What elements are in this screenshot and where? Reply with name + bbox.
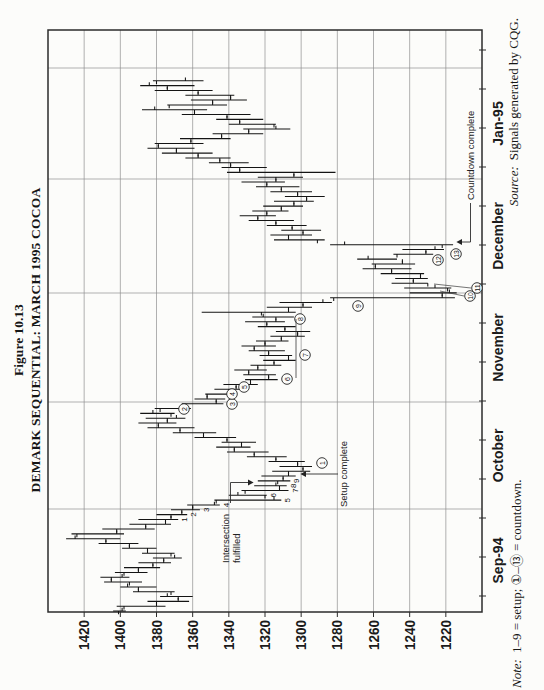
- ohlc-bar: [280, 463, 313, 470]
- ohlc-bar: [195, 396, 226, 403]
- ohlc-bar: [249, 217, 294, 224]
- countdown-connector-line: [440, 291, 464, 296]
- price-bars: [66, 78, 457, 615]
- ohlc-bar: [133, 588, 175, 595]
- ohlc-bar: [258, 478, 291, 485]
- ohlc-bar: [330, 294, 455, 301]
- ohlc-bar: [276, 328, 310, 335]
- setup-digit: 7: [291, 488, 300, 493]
- ohlc-bar: [122, 545, 156, 552]
- svg-text:8: 8: [297, 317, 304, 321]
- countdown-circles: 12345678910111213: [179, 249, 483, 469]
- ohlc-bar: [243, 126, 290, 133]
- ohlc-bar: [148, 425, 195, 432]
- ohlc-bar: [173, 429, 216, 436]
- ohlc-bar: [285, 193, 325, 200]
- ohlc-bar: [242, 343, 276, 350]
- ohlc-bar: [256, 338, 289, 345]
- price-tick-label: 1340: [221, 620, 237, 650]
- ohlc-bar: [247, 454, 287, 461]
- month-label: Sep-94: [490, 537, 506, 583]
- ohlc-bar: [258, 174, 303, 181]
- ohlc-bar: [270, 333, 304, 340]
- setup-digit: 8: [289, 483, 298, 488]
- ohlc-bar: [258, 323, 296, 330]
- month-label: December: [490, 202, 506, 270]
- setup-digit: 3: [202, 507, 211, 512]
- countdown-complete-arrowhead: [456, 239, 462, 245]
- ohlc-bar: [100, 574, 129, 581]
- ohlc-bar: [267, 222, 307, 229]
- ohlc-bar: [274, 237, 325, 244]
- ohlc-bar: [254, 482, 287, 489]
- ohlc-bar: [140, 410, 174, 417]
- ohlc-bar: [245, 376, 278, 383]
- ohlc-bar: [142, 106, 207, 113]
- price-tick-label: 1300: [293, 620, 309, 650]
- source-line: Source:Signals generated by CQG.: [506, 18, 521, 206]
- ohlc-bar: [381, 270, 424, 277]
- svg-text:10: 10: [467, 292, 474, 300]
- ohlc-bar: [153, 78, 204, 85]
- ohlc-bar: [138, 420, 176, 427]
- price-tick-label: 1320: [257, 620, 273, 650]
- ohlc-bar: [155, 140, 204, 147]
- setup-complete-label: Setup complete: [338, 441, 349, 507]
- ohlc-bar: [242, 179, 285, 186]
- ohlc-bar: [222, 164, 267, 171]
- ohlc-bar: [162, 150, 213, 157]
- countdown-mark: 3: [227, 399, 238, 410]
- ohlc-bar: [261, 473, 295, 480]
- setup-digit: 4: [222, 502, 231, 507]
- ohlc-bar: [229, 121, 276, 128]
- ohlc-bar: [213, 131, 264, 138]
- ohlc-bar: [260, 352, 293, 359]
- countdown-complete-leader-line: [462, 203, 471, 242]
- month-axis-labels: Sep-94OctoberNovemberDecemberJan-95: [490, 101, 506, 583]
- ohlc-bar: [251, 362, 282, 369]
- ohlc-bar: [138, 560, 171, 567]
- ohlc-bar: [402, 246, 444, 253]
- ohlc-bar: [263, 203, 303, 210]
- rotated-chart-figure: Figure 10.13 DEMARK SEQUENTIAL: MARCH 19…: [0, 0, 544, 690]
- svg-text:13: 13: [453, 250, 460, 258]
- ohlc-bar: [372, 261, 415, 268]
- ohlc-bar: [148, 598, 190, 605]
- ohlc-bar: [182, 111, 251, 118]
- svg-text:9: 9: [355, 304, 362, 308]
- svg-text:2: 2: [181, 407, 188, 411]
- svg-text:3: 3: [229, 402, 236, 406]
- intersection-fulfilled-label-line2: fulfilled: [231, 533, 242, 563]
- countdown-mark: 5: [239, 382, 250, 393]
- ohlc-bar: [227, 449, 269, 456]
- ohlc-bar: [102, 526, 154, 533]
- ohlc-bar: [99, 540, 139, 547]
- countdown-mark: 2: [179, 404, 190, 415]
- ohlc-bar: [195, 434, 237, 441]
- ohlc-bar: [66, 535, 120, 542]
- ohlc-bar: [146, 415, 186, 422]
- intersection-arrowhead: [248, 479, 254, 485]
- setup-digit: 1: [180, 517, 189, 522]
- ohlc-bar: [180, 135, 231, 142]
- ohlc-bar: [240, 213, 276, 220]
- ohlc-bar: [117, 603, 166, 610]
- price-tick-label: 1380: [149, 620, 165, 650]
- ohlc-bar: [140, 82, 194, 89]
- ohlc-bar: [267, 304, 312, 311]
- chart-canvas: Figure 10.13 DEMARK SEQUENTIAL: MARCH 19…: [0, 0, 544, 690]
- ohlc-bar: [234, 367, 266, 374]
- svg-text:11: 11: [474, 284, 481, 292]
- countdown-mark: 13: [451, 249, 462, 260]
- svg-text:1: 1: [319, 461, 326, 465]
- ohlc-bar: [256, 184, 299, 191]
- ohlc-bar: [357, 256, 402, 263]
- price-tick-label: 1240: [402, 620, 418, 650]
- ohlc-bar: [124, 564, 160, 571]
- figure-label: Figure 10.13: [11, 304, 26, 376]
- ohlc-bar: [148, 145, 195, 152]
- ohlc-bar: [274, 198, 314, 205]
- ohlc-bar: [72, 531, 125, 538]
- price-tick-label: 1260: [366, 620, 382, 650]
- note-line: Note:1–9 = setup; ①–⑬ = countdown.: [509, 479, 524, 689]
